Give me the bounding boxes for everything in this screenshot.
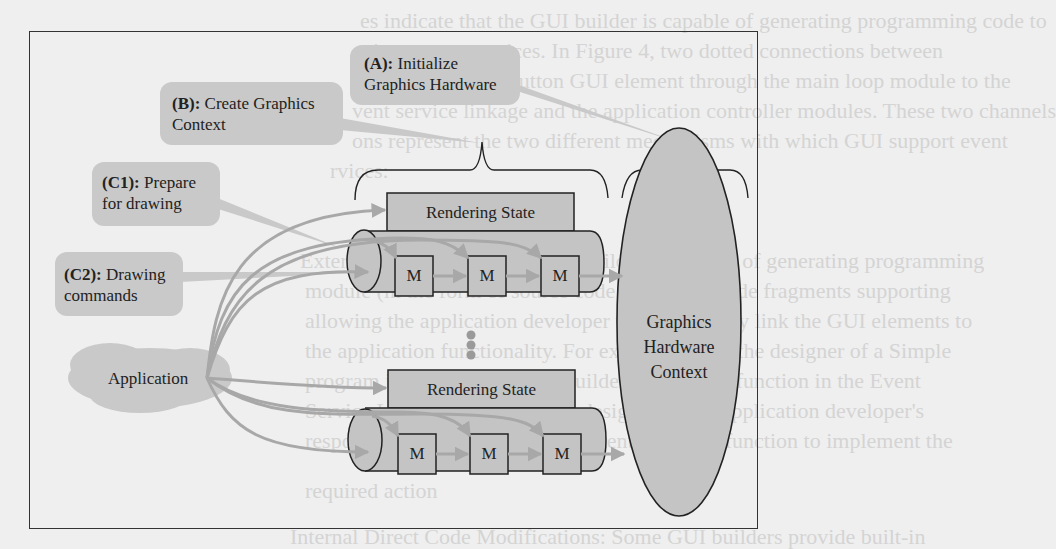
callout-c1-line1: Prepare — [144, 173, 196, 192]
module-label: M — [398, 443, 436, 464]
rendering-state-label-2: Rendering State — [388, 379, 575, 400]
callout-b-line2: Context — [172, 115, 226, 134]
callout-b-label: (B): Create Graphics Context — [172, 93, 315, 135]
context-line1: Graphics — [647, 312, 712, 332]
application-label: Application — [108, 368, 188, 389]
rendering-state-label-1: Rendering State — [387, 202, 574, 223]
callout-c1-label: (C1): Prepare for drawing — [102, 172, 196, 214]
callout-a-label: (A): Initialize Graphics Hardware — [364, 53, 497, 95]
brace-left — [355, 142, 608, 200]
context-line3: Context — [651, 362, 708, 382]
callout-a-line2: Graphics Hardware — [364, 75, 497, 94]
callout-c2-tag: (C2): — [64, 265, 102, 284]
graphics-hardware-context-label: Graphics Hardware Context — [619, 310, 739, 385]
more-pipelines-dots — [467, 331, 476, 360]
module-label: M — [468, 265, 506, 286]
module-label: M — [541, 265, 579, 286]
callout-c2-line2: commands — [64, 286, 138, 305]
module-label: M — [543, 443, 581, 464]
callout-c2-line1: Drawing — [106, 265, 165, 284]
callout-b-tag: (B): — [172, 94, 200, 113]
callout-a-line1: Initialize — [398, 54, 458, 73]
callout-c2-label: (C2): Drawing commands — [64, 264, 166, 306]
callout-c1-tag: (C1): — [102, 173, 140, 192]
callout-c1-line2: for drawing — [102, 194, 182, 213]
context-line2: Hardware — [644, 337, 715, 357]
module-label: M — [395, 265, 433, 286]
callout-a-tag: (A): — [364, 54, 393, 73]
module-label: M — [470, 443, 508, 464]
callout-b-line1: Create Graphics — [205, 94, 315, 113]
